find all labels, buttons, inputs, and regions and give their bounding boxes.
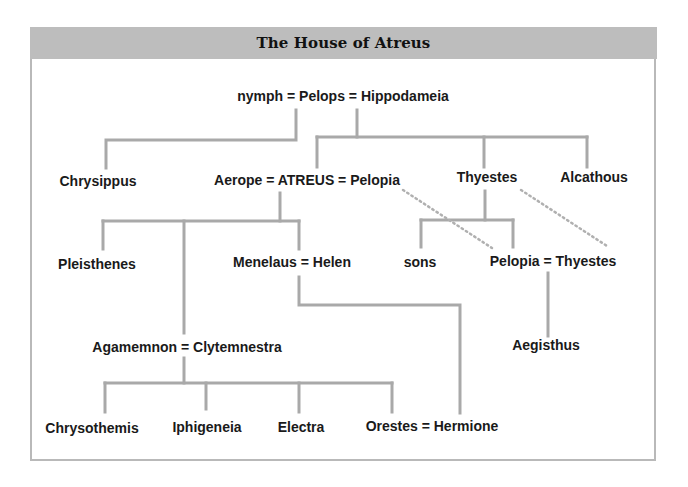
line-menelaus-hermione [299, 277, 460, 413]
node-thyestes: Thyestes [457, 170, 518, 184]
node-chrysothemis: Chrysothemis [45, 421, 138, 435]
line-pelops-chrysippus [106, 110, 296, 168]
node-orestes-union: Orestes = Hermione [366, 419, 499, 433]
family-tree-lines [0, 0, 688, 487]
node-iphigeneia: Iphigeneia [172, 420, 241, 434]
node-menelaus-union: Menelaus = Helen [233, 255, 351, 269]
node-chrysippus: Chrysippus [59, 174, 136, 188]
node-atreus-union: Aerope = ATREUS = Pelopia [214, 173, 400, 187]
node-pleisthenes: Pleisthenes [58, 257, 136, 271]
node-aegisthus: Aegisthus [512, 338, 580, 352]
node-pelops-union: nymph = Pelops = Hippodameia [237, 89, 449, 103]
node-sons: sons [404, 255, 437, 269]
node-agamemnon-union: Agamemnon = Clytemnestra [92, 340, 281, 354]
dotted-thyestes-identity [521, 190, 607, 246]
node-alcathous: Alcathous [560, 170, 628, 184]
node-electra: Electra [278, 420, 325, 434]
node-pelopia-thyestes-union: Pelopia = Thyestes [490, 254, 616, 268]
